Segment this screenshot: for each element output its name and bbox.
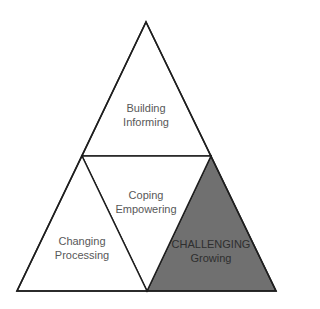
label-top-line2: Informing — [123, 115, 169, 129]
label-bottom-right: CHALLENGING Growing — [172, 237, 251, 265]
triangle-top — [82, 22, 211, 156]
label-bottom-left-line2: Processing — [55, 248, 109, 262]
label-bottom-left-line1: Changing — [55, 234, 109, 248]
label-top: Building Informing — [123, 101, 169, 129]
label-middle-line1: Coping — [115, 188, 176, 202]
label-middle-line2: Empowering — [115, 202, 176, 216]
label-bottom-right-line1: CHALLENGING — [172, 237, 251, 251]
label-bottom-left: Changing Processing — [55, 234, 109, 262]
label-top-line1: Building — [123, 101, 169, 115]
label-middle: Coping Empowering — [115, 188, 176, 216]
label-bottom-right-line2: Growing — [172, 251, 251, 265]
